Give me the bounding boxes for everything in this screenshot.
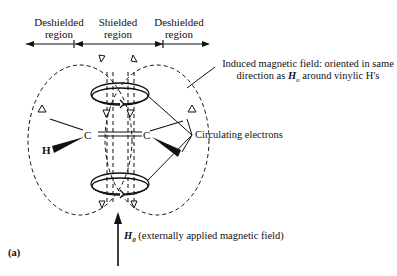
- text: around vinylic H's: [300, 70, 380, 81]
- label-line: region: [88, 28, 148, 40]
- region-arrows: [26, 40, 210, 48]
- annotation-line: direction as Ho around vinylic H's: [216, 70, 397, 86]
- pointer-lines: [148, 67, 215, 180]
- bonds: [50, 119, 183, 136]
- electron-loops: [91, 83, 149, 198]
- text: direction as: [237, 70, 288, 81]
- wedge-bond-right: [152, 137, 181, 157]
- text: (externally applied magnetic field): [136, 230, 284, 241]
- label-line: region: [148, 28, 210, 40]
- deshielded-right-label: Deshielded region: [148, 16, 210, 40]
- label-line: Deshielded: [28, 16, 90, 28]
- deshielded-left-label: Deshielded region: [28, 16, 90, 40]
- applied-field-label: H0 (externally applied magnetic field): [124, 230, 284, 246]
- wedge-bond-left: [52, 137, 84, 153]
- label-line: region: [28, 28, 90, 40]
- annotation-line: Induced magnetic field: oriented in same: [216, 58, 397, 70]
- carbon-right: C: [143, 129, 150, 141]
- applied-field-arrow: [114, 212, 122, 266]
- hydrogen: H: [42, 144, 51, 156]
- carbon-left: C: [84, 129, 91, 141]
- induced-field-annotation: Induced magnetic field: oriented in same…: [216, 58, 397, 86]
- label-line: Deshielded: [148, 16, 210, 28]
- h-symbol: H: [124, 230, 132, 241]
- label-line: Shielded: [88, 16, 148, 28]
- h-symbol: H: [288, 70, 296, 81]
- panel-label: (a): [8, 247, 20, 259]
- shielded-center-label: Shielded region: [88, 16, 148, 40]
- circulating-electrons-label: Circulating electrons: [195, 129, 283, 141]
